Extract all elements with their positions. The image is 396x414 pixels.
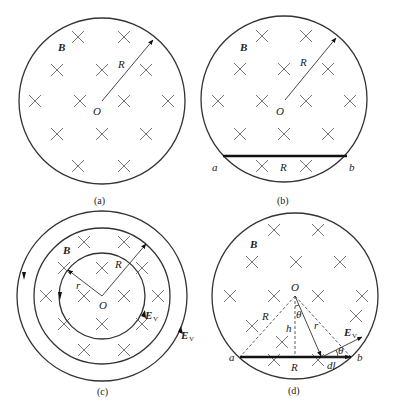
inner-induced-field-label: E V: [144, 309, 158, 323]
endpoint-b-label: b: [349, 161, 355, 173]
radius-R-label: R: [114, 258, 122, 270]
panel-a: B R O (a): [19, 18, 185, 207]
endpoint-a-label: a: [229, 351, 235, 363]
panel-caption: (a): [94, 195, 105, 207]
electromagnetic-induction-diagram: B R O (a) B R O a b R (b) B R r O E: [0, 0, 396, 414]
svg-text:V: V: [189, 335, 194, 343]
chord-length-label: R: [279, 161, 287, 173]
svg-text:E: E: [144, 309, 152, 321]
field-label: B: [57, 41, 65, 53]
field-label: B: [249, 238, 257, 250]
outer-induced-field-label: E V: [180, 329, 194, 343]
outer-circle-direction-arrow: [22, 272, 26, 280]
endpoint-b-label: b: [357, 351, 363, 363]
radius-r-arrow: [68, 270, 102, 296]
magnetic-field-crosses: [212, 30, 356, 172]
panel-caption: (c): [97, 386, 108, 398]
center-label: O: [93, 105, 101, 117]
svg-text:V: V: [352, 332, 357, 340]
panel-b: B R O a b R (b): [201, 16, 367, 207]
field-label: B: [239, 41, 247, 53]
angle-arc-theta-top: [295, 305, 299, 306]
angle-theta-bottom-label: θ: [338, 344, 344, 356]
panel-caption: (b): [277, 195, 289, 207]
radius-label: R: [117, 58, 125, 70]
height-h-label: h: [286, 322, 292, 334]
angle-theta-top-label: θ: [296, 308, 302, 320]
radius-label: R: [299, 56, 307, 68]
svg-text:E: E: [180, 329, 188, 341]
svg-text:E: E: [343, 326, 351, 338]
panel-d: B O θ R h r E V θ a b R dl (d): [212, 213, 378, 397]
center-label: O: [276, 105, 284, 117]
field-label: B: [62, 244, 70, 256]
svg-text:V: V: [153, 315, 158, 323]
panel-caption: (d): [288, 385, 300, 397]
dl-label: dl: [327, 359, 336, 371]
endpoint-a-label: a: [212, 161, 218, 173]
chord-length-label: R: [290, 361, 298, 373]
center-label: O: [291, 281, 299, 293]
distance-r-label: r: [314, 319, 319, 331]
induced-field-label: E V: [343, 326, 357, 340]
radius-r-label: r: [76, 279, 81, 291]
radius-R-label: R: [261, 310, 269, 322]
center-label: O: [99, 299, 107, 311]
panel-c: B R r O E V E V (c): [17, 211, 194, 398]
magnetic-field-crosses: [29, 31, 174, 172]
